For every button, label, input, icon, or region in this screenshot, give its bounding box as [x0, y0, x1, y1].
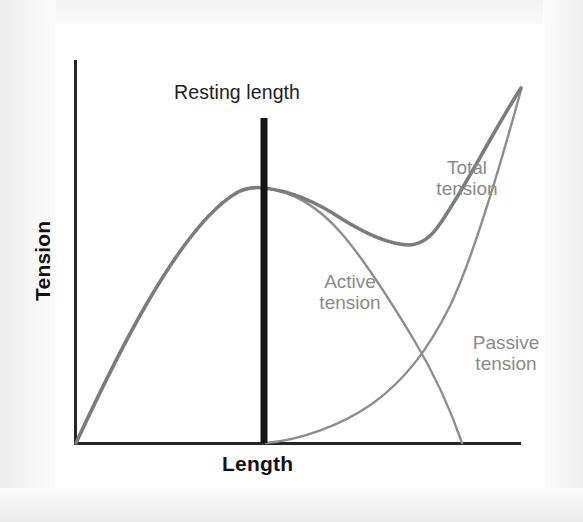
total-tension-label-line2: tension: [436, 178, 497, 199]
active-tension-label-line2: tension: [319, 292, 380, 313]
resting-length-label: Resting length: [174, 82, 300, 104]
active-tension-label: Activetension: [302, 271, 398, 314]
curve-total-tension: [76, 88, 521, 443]
passive-tension-label-line2: tension: [475, 353, 536, 374]
active-tension-label-line1: Active: [324, 271, 376, 292]
length-tension-chart: [0, 0, 583, 522]
total-tension-label: Totaltension: [419, 157, 515, 200]
x-axis-label: Length: [222, 452, 293, 476]
figure-root: Resting length Totaltension Activetensio…: [0, 0, 583, 522]
curve-active-tension: [264, 188, 462, 443]
y-axis-label: Tension: [31, 201, 55, 321]
curve-passive-tension: [266, 90, 521, 443]
total-tension-label-line1: Total: [447, 157, 487, 178]
passive-tension-label: Passivetension: [451, 332, 561, 375]
passive-tension-label-line1: Passive: [473, 332, 540, 353]
